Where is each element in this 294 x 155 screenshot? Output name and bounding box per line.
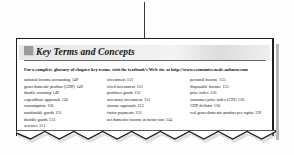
list-item: gross domestic product (GDP)149 bbox=[24, 84, 101, 91]
list-item: national income accounting149 bbox=[24, 77, 101, 84]
list-item: investment151 bbox=[107, 77, 184, 84]
list-item: income approach153 bbox=[107, 103, 184, 110]
term-page: 151 bbox=[142, 97, 150, 102]
term-page: 156 bbox=[212, 103, 220, 108]
term-page: 156 bbox=[209, 90, 217, 95]
list-item: GDP deflator156 bbox=[190, 103, 267, 110]
key-terms-feature-box: Key Terms and Concepts For a complete gl… bbox=[16, 38, 274, 136]
glossary-note: For a complete glossary of chapter key t… bbox=[24, 66, 267, 73]
term-label: producer goods bbox=[107, 90, 133, 95]
term-page: 149 bbox=[70, 77, 78, 82]
term-label: price index bbox=[190, 90, 209, 95]
list-item: producer goods151 bbox=[107, 90, 184, 97]
term-page: 151 bbox=[135, 84, 143, 89]
term-page: 149 bbox=[51, 90, 59, 95]
term-label: nondurable goods bbox=[24, 110, 54, 115]
list-item: nondurable goods151 bbox=[24, 110, 101, 117]
term-page: 151 bbox=[54, 110, 62, 115]
list-item: disposable income155 bbox=[190, 84, 267, 91]
term-label: real gross domestic product per capita bbox=[190, 110, 253, 115]
list-item: durable goods151 bbox=[24, 117, 101, 124]
list-item: consumer price index (CPI)156 bbox=[190, 97, 267, 104]
term-label: services bbox=[24, 123, 37, 128]
list-item: inventory investment151 bbox=[107, 97, 184, 104]
term-label: net domestic income at factor cost bbox=[107, 117, 164, 122]
list-item: price index156 bbox=[190, 90, 267, 97]
term-label: expenditure approach bbox=[24, 97, 60, 102]
term-label: inventory investment bbox=[107, 97, 142, 102]
list-item: consumption150 bbox=[24, 103, 101, 110]
list-item: services151 bbox=[24, 123, 101, 130]
list-item: expenditure approach150 bbox=[24, 97, 101, 104]
glossary-url-link[interactable]: http://www.economics.ncde.auburn.com bbox=[171, 67, 248, 72]
term-page: 154 bbox=[164, 117, 172, 122]
term-label: factor payments bbox=[107, 110, 134, 115]
box-drop-shadow bbox=[276, 44, 279, 140]
title-underline-rule bbox=[24, 60, 266, 61]
term-page: 151 bbox=[133, 90, 141, 95]
term-page: 155 bbox=[218, 77, 226, 82]
term-label: double counting bbox=[24, 90, 51, 95]
term-label: income approach bbox=[107, 103, 136, 108]
term-page: 151 bbox=[125, 77, 133, 82]
torn-paper-edge bbox=[16, 130, 276, 144]
term-page: 151 bbox=[48, 117, 56, 122]
list-item: factor payments153 bbox=[107, 110, 184, 117]
list-item: fixed investment151 bbox=[107, 84, 184, 91]
term-label: gross domestic product (GDP) bbox=[24, 84, 75, 89]
term-label: consumption bbox=[24, 103, 46, 108]
term-label: personal income bbox=[190, 77, 218, 82]
page-canvas: Key Terms and Concepts For a complete gl… bbox=[0, 0, 294, 155]
term-page: 150 bbox=[46, 103, 54, 108]
list-item: personal income155 bbox=[190, 77, 267, 84]
list-item: double counting149 bbox=[24, 90, 101, 97]
term-page: 153 bbox=[136, 103, 144, 108]
term-page: 155 bbox=[221, 84, 229, 89]
list-item: real gross domestic product per capita15… bbox=[190, 110, 267, 117]
key-terms-column-1: national income accounting149 gross dome… bbox=[24, 77, 101, 130]
term-label: fixed investment bbox=[107, 84, 135, 89]
term-label: investment bbox=[107, 77, 125, 82]
key-terms-column-2: investment151 fixed investment151 produc… bbox=[107, 77, 184, 130]
term-label: disposable income bbox=[190, 84, 221, 89]
page-title: Key Terms and Concepts bbox=[36, 45, 135, 60]
term-label: GDP deflator bbox=[190, 103, 212, 108]
key-terms-columns: national income accounting149 gross dome… bbox=[24, 77, 267, 130]
term-page: 151 bbox=[37, 123, 45, 128]
square-bullet-icon bbox=[24, 46, 33, 55]
term-page: 159 bbox=[253, 110, 261, 115]
term-page: 150 bbox=[60, 97, 68, 102]
term-label: national income accounting bbox=[24, 77, 70, 82]
glossary-note-text: For a complete glossary of chapter key t… bbox=[24, 67, 171, 72]
term-label: consumer price index (CPI) bbox=[190, 97, 236, 102]
list-item: net domestic income at factor cost154 bbox=[107, 117, 184, 124]
key-terms-column-3: personal income155 disposable income155 … bbox=[190, 77, 267, 130]
term-label: durable goods bbox=[24, 117, 48, 122]
term-page: 153 bbox=[134, 110, 142, 115]
term-page: 149 bbox=[75, 84, 83, 89]
term-page: 156 bbox=[236, 97, 244, 102]
